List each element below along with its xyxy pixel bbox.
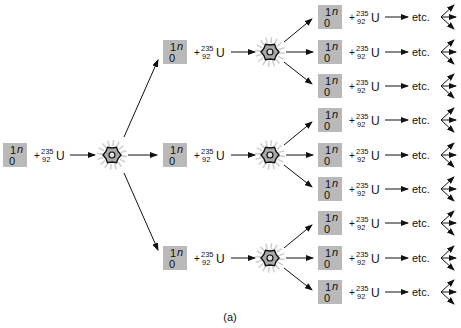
arrow <box>441 189 454 201</box>
uranium-atomic-number: 92 <box>42 155 50 164</box>
neutron-atomic-number: 0 <box>324 86 330 98</box>
burst-ray <box>271 140 272 146</box>
burst-ray <box>258 58 263 62</box>
burst-ray <box>278 56 283 59</box>
burst-ray <box>255 154 261 155</box>
neutron-symbol: n <box>332 280 338 292</box>
uranium-symbol: U <box>216 46 225 60</box>
plus-sign: + <box>194 150 200 161</box>
burst-ray <box>266 141 268 147</box>
burst-ray <box>256 158 262 160</box>
burst-ray <box>273 61 275 67</box>
etc-label: etc. <box>412 286 430 298</box>
burst-ray <box>271 37 272 43</box>
plus-sign: + <box>349 218 355 229</box>
neutron-symbol: n <box>332 143 338 155</box>
burst-ray <box>118 162 122 167</box>
arrow <box>441 17 454 29</box>
neutron-symbol: n <box>332 177 338 189</box>
etc-label: etc. <box>412 46 430 58</box>
plus-sign: + <box>349 150 355 161</box>
neutron-symbol: n <box>17 143 23 155</box>
arrow <box>441 143 454 155</box>
burst-ray <box>261 40 265 45</box>
caption: (a) <box>223 311 236 323</box>
neutron-atomic-number: 0 <box>324 189 330 201</box>
burst-ray <box>256 55 262 57</box>
neutron-atomic-number: 0 <box>324 120 330 132</box>
burst-ray <box>269 61 270 67</box>
burst-ray <box>273 267 275 273</box>
burst-ray <box>98 158 104 160</box>
etc-label: etc. <box>412 183 430 195</box>
burst-ray <box>121 156 127 157</box>
burst-ray <box>266 244 268 250</box>
arrow <box>441 5 454 17</box>
burst-ray <box>278 262 283 265</box>
arrow <box>441 86 454 98</box>
nucleus-core-icon <box>267 152 273 158</box>
arrow <box>284 225 312 248</box>
burst-ray <box>276 59 280 64</box>
neutron-symbol: n <box>332 74 338 86</box>
neutron-symbol: n <box>332 211 338 223</box>
burst-ray <box>105 163 108 168</box>
arrow <box>441 120 454 132</box>
nucleus-core-icon <box>267 255 273 261</box>
uranium-symbol: U <box>371 114 380 128</box>
neutron-atomic-number: 0 <box>169 155 175 167</box>
burst-ray <box>103 143 107 148</box>
burst-ray <box>277 43 282 47</box>
neutron-atomic-number: 0 <box>324 155 330 167</box>
uranium-symbol: U <box>216 149 225 163</box>
burst-ray <box>276 162 280 167</box>
burst-ray <box>279 151 285 153</box>
arrow <box>441 246 454 258</box>
burst-ray <box>258 161 263 165</box>
uranium-symbol: U <box>371 252 380 266</box>
burst-ray <box>277 146 282 150</box>
arrow <box>124 173 158 250</box>
etc-label: etc. <box>412 11 430 23</box>
neutron-atomic-number: 0 <box>324 292 330 304</box>
burst-ray <box>108 141 110 147</box>
burst-ray <box>111 164 112 170</box>
neutron-symbol: n <box>177 246 183 258</box>
arrow <box>284 122 312 145</box>
arrow <box>284 268 312 290</box>
burst-ray <box>263 266 266 271</box>
burst-ray <box>255 257 261 258</box>
arrow <box>284 62 312 84</box>
neutron-atomic-number: 0 <box>169 258 175 270</box>
etc-label: etc. <box>412 217 430 229</box>
burst-ray <box>277 249 282 253</box>
uranium-symbol: U <box>371 80 380 94</box>
arrow <box>441 258 454 270</box>
plus-sign: + <box>349 12 355 23</box>
uranium-atomic-number: 92 <box>357 292 365 301</box>
burst-ray <box>261 143 265 148</box>
burst-ray <box>274 245 277 250</box>
uranium-atomic-number: 92 <box>357 155 365 164</box>
neutron-atomic-number: 0 <box>9 155 15 167</box>
etc-label: etc. <box>412 252 430 264</box>
burst-ray <box>279 156 285 157</box>
neutron-atomic-number: 0 <box>324 52 330 64</box>
neutron-symbol: n <box>332 5 338 17</box>
burst-ray <box>97 154 103 155</box>
burst-ray <box>274 142 277 147</box>
uranium-symbol: U <box>371 217 380 231</box>
neutron-symbol: n <box>332 246 338 258</box>
uranium-atomic-number: 92 <box>357 52 365 61</box>
plus-sign: + <box>349 81 355 92</box>
burst-ray <box>116 142 119 147</box>
arrow <box>441 52 454 64</box>
burst-ray <box>261 246 265 251</box>
burst-ray <box>115 164 117 170</box>
burst-ray <box>99 148 104 151</box>
neutron-symbol: n <box>177 40 183 52</box>
arrow <box>441 211 454 223</box>
burst-ray <box>120 159 125 162</box>
burst-ray <box>276 265 280 270</box>
uranium-symbol: U <box>371 149 380 163</box>
